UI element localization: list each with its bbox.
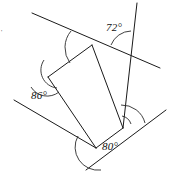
line-left-extended [14, 100, 96, 148]
side-top-left [48, 45, 92, 77]
side-right-top [92, 45, 123, 128]
angle-label-72: 72° [106, 21, 122, 33]
angle-label-80: 80° [102, 140, 118, 152]
angle-arc-bottom-80 [75, 136, 101, 170]
line-top-transversal [32, 13, 160, 68]
angle-arc-top-left [65, 31, 71, 63]
angle-arc-left-inner [41, 60, 57, 88]
line-bottom-transversal [86, 110, 166, 170]
angle-label-86: 86° [31, 89, 47, 101]
angle-arc-top-right-72 [111, 31, 131, 45]
stray-scan-mark: ' [1, 28, 2, 36]
geometry-diagram: 72° 86° 80° ' [0, 0, 187, 174]
geometry-canvas [0, 0, 187, 174]
